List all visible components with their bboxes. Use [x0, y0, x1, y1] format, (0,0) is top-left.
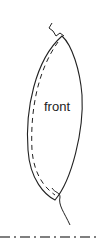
piece-label: front — [44, 99, 70, 114]
stitch-line — [32, 42, 58, 195]
pattern-piece-diagram — [0, 0, 96, 243]
thread-end-bottom — [52, 188, 70, 225]
thread-end-top — [49, 23, 64, 36]
piece-outline — [27, 36, 82, 200]
